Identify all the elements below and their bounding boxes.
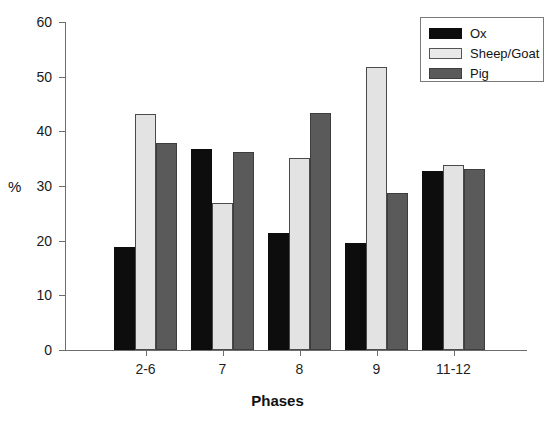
bar-sheep-goat-phase-7 <box>212 203 233 350</box>
legend-swatch-ox <box>429 28 462 39</box>
x-tick-8 <box>300 350 301 356</box>
x-tick-11-12 <box>454 350 455 356</box>
bar-pig-phase-11-12 <box>464 169 485 350</box>
bar-pig-phase-9 <box>387 193 408 350</box>
bar-sheep-goat-phase-2-6 <box>135 114 156 350</box>
x-tick-label-11-12: 11-12 <box>414 362 494 377</box>
x-axis-title: Phases <box>0 392 555 409</box>
bar-chart: 0102030405060 2-678911-12 % Phases Ox Sh… <box>0 0 555 423</box>
legend-label-sheep-goat: Sheep/Goat <box>470 47 539 60</box>
bar-ox-phase-7 <box>191 149 212 350</box>
x-tick-label-7: 7 <box>183 362 263 377</box>
bar-pig-phase-2-6 <box>156 143 177 350</box>
y-tick-label-20: 20 <box>0 234 52 248</box>
y-tick-label-40: 40 <box>0 124 52 138</box>
x-tick-7 <box>223 350 224 356</box>
y-tick-label-0: 0 <box>0 343 52 357</box>
x-tick-2-6 <box>146 350 147 356</box>
legend-label-pig: Pig <box>470 67 489 80</box>
legend-swatch-sheep-goat <box>429 48 462 59</box>
y-axis-title: % <box>8 178 21 195</box>
legend-label-ox: Ox <box>470 27 487 40</box>
legend-swatch-pig <box>429 68 462 79</box>
bar-ox-phase-11-12 <box>422 171 443 350</box>
bar-ox-phase-9 <box>345 243 366 350</box>
x-tick-9 <box>377 350 378 356</box>
y-tick-label-60: 60 <box>0 15 52 29</box>
legend: Ox Sheep/Goat Pig <box>420 17 544 82</box>
bar-sheep-goat-phase-9 <box>366 67 387 350</box>
legend-item-pig: Pig <box>429 64 543 82</box>
x-tick-label-8: 8 <box>260 362 340 377</box>
bar-ox-phase-8 <box>268 233 289 350</box>
bar-sheep-goat-phase-8 <box>289 158 310 350</box>
x-tick-label-9: 9 <box>337 362 417 377</box>
bar-sheep-goat-phase-11-12 <box>443 165 464 350</box>
y-tick-label-10: 10 <box>0 288 52 302</box>
legend-item-sheep-goat: Sheep/Goat <box>429 44 543 62</box>
legend-item-ox: Ox <box>429 24 543 42</box>
x-axis-line <box>65 350 527 351</box>
bar-pig-phase-8 <box>310 113 331 350</box>
y-tick-0 <box>59 350 66 351</box>
bar-ox-phase-2-6 <box>114 247 135 350</box>
x-tick-label-2-6: 2-6 <box>106 362 186 377</box>
bar-pig-phase-7 <box>233 152 254 350</box>
y-tick-label-50: 50 <box>0 70 52 84</box>
